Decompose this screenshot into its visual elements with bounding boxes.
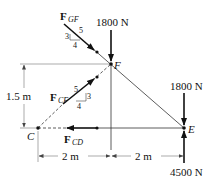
- load-at-e: 1800 N: [170, 80, 203, 125]
- slope-cf-run: 4: [77, 102, 81, 111]
- load-f-label: 1800 N: [96, 16, 129, 28]
- dot-gf: [95, 50, 98, 53]
- node-label-f: F: [113, 59, 121, 71]
- joint-c: [36, 126, 40, 130]
- slope-gf-rise: 3: [65, 32, 69, 41]
- force-cf-symbol: F: [50, 91, 57, 103]
- force-cd-subscript: CD: [72, 138, 83, 147]
- joint-f: [109, 62, 113, 66]
- force-cf-subscript: CF: [58, 96, 68, 105]
- slope-gf-run: 4: [73, 41, 77, 50]
- joint-e: [182, 126, 186, 130]
- dimension-span-right-label: 2 m: [135, 150, 152, 162]
- slope-cf-rise: 3: [87, 92, 91, 101]
- force-cf: F CF 5 3 4: [50, 79, 94, 111]
- node-label-c: C: [27, 130, 35, 142]
- force-gf-subscript: GF: [68, 15, 79, 24]
- force-cd: F CD: [64, 128, 97, 147]
- free-body-diagram: C F E F GF 3 4 5 1800 N F CF 5 3 4 F CD …: [0, 0, 213, 181]
- slope-gf-hyp: 5: [79, 26, 83, 35]
- reaction-e-label: 4500 N: [170, 166, 203, 178]
- dot-cf: [95, 75, 98, 78]
- node-label-e: E: [187, 123, 195, 135]
- force-gf-symbol: F: [60, 10, 67, 22]
- force-cd-symbol: F: [64, 133, 71, 145]
- reaction-at-e: 4500 N: [170, 131, 203, 178]
- load-at-f: 1800 N: [96, 16, 129, 61]
- dimension-spans: 2 m 2 m: [38, 131, 183, 162]
- dimension-span-left-label: 2 m: [62, 150, 79, 162]
- load-e-label: 1800 N: [170, 80, 203, 92]
- member-cf-dashed: [38, 104, 63, 128]
- slope-triangle-cf: [76, 93, 86, 101]
- force-gf: F GF 3 4 5: [60, 10, 94, 50]
- slope-cf-hyp: 5: [74, 85, 78, 94]
- dimension-height-label: 1.5 m: [6, 90, 32, 102]
